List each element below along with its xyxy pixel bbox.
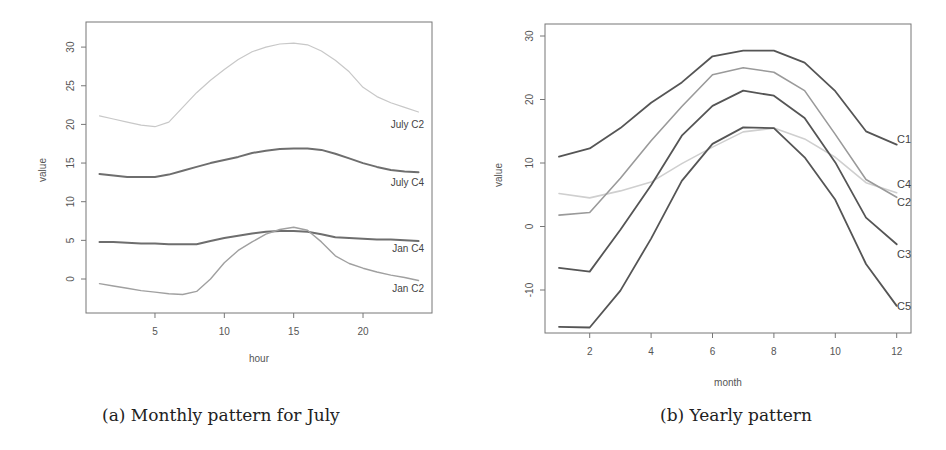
- x-tick-label: 15: [288, 326, 300, 337]
- x-tick-label: 10: [830, 346, 842, 357]
- chart-b-x-axis-title: month: [714, 377, 742, 388]
- series-label-jan-c4: Jan C4: [392, 243, 424, 254]
- series-label-c1: C1: [897, 133, 911, 145]
- series-line-jan-c2: [100, 227, 419, 294]
- chart-a-series-labels: July C2July C4Jan C4Jan C2: [391, 119, 425, 294]
- series-label-jan-c2: Jan C2: [392, 283, 424, 294]
- chart-a-y-axis: 051015202530: [65, 41, 86, 282]
- chart-a-x-axis: 5101520: [152, 313, 369, 337]
- series-line-c1: [559, 51, 897, 157]
- caption-b: (b) Yearly pattern: [660, 405, 812, 425]
- y-tick-label: 0: [524, 223, 535, 229]
- y-tick-label: 0: [65, 276, 76, 282]
- x-tick-label: 20: [357, 326, 369, 337]
- series-label-c3: C3: [897, 248, 911, 260]
- series-label-july-c2: July C2: [391, 119, 425, 130]
- series-line-c4: [559, 128, 897, 198]
- series-label-c2: C2: [897, 196, 911, 208]
- chart-a-panel: 051015202530 5101520 July C2July C4Jan C…: [37, 22, 432, 364]
- x-tick-label: 6: [710, 346, 716, 357]
- x-tick-label: 10: [219, 326, 231, 337]
- y-tick-label: 30: [65, 41, 76, 53]
- y-tick-label: 10: [65, 196, 76, 208]
- chart-a-x-axis-title: hour: [249, 353, 270, 364]
- x-tick-label: 12: [891, 346, 903, 357]
- series-line-c5: [559, 127, 897, 327]
- y-tick-label: 5: [65, 237, 76, 243]
- y-tick-label: 10: [524, 157, 535, 169]
- x-tick-label: 2: [587, 346, 593, 357]
- y-tick-label: 20: [65, 118, 76, 130]
- x-tick-label: 4: [648, 346, 654, 357]
- y-tick-label: 30: [524, 30, 535, 42]
- chart-b-y-axis-title: value: [493, 163, 504, 187]
- y-tick-label: 20: [524, 94, 535, 106]
- series-line-c3: [559, 91, 897, 272]
- series-label-july-c4: July C4: [391, 177, 425, 188]
- y-tick-label: 15: [65, 157, 76, 169]
- chart-b-series-lines: [559, 51, 897, 328]
- series-line-july-c2: [100, 43, 419, 127]
- series-line-july-c4: [100, 148, 419, 177]
- caption-a: (a) Monthly pattern for July: [102, 405, 340, 425]
- chart-a-series-lines: [100, 43, 419, 294]
- chart-b-plot-box: [545, 24, 911, 333]
- series-label-c4: C4: [897, 178, 911, 190]
- chart-b-panel: -100102030 24681012 C1C4C2C3C5 month val…: [493, 24, 911, 388]
- chart-a-y-axis-title: value: [37, 158, 48, 182]
- x-tick-label: 8: [771, 346, 777, 357]
- chart-b-y-axis: -100102030: [524, 30, 545, 297]
- chart-b-x-axis: 24681012: [587, 333, 903, 357]
- y-tick-label: 25: [65, 80, 76, 92]
- figure-canvas: 051015202530 5101520 July C2July C4Jan C…: [0, 0, 946, 450]
- y-tick-label: -10: [524, 282, 535, 297]
- series-label-c5: C5: [897, 300, 911, 312]
- chart-b-series-labels: C1C4C2C3C5: [897, 133, 911, 312]
- x-tick-label: 5: [152, 326, 158, 337]
